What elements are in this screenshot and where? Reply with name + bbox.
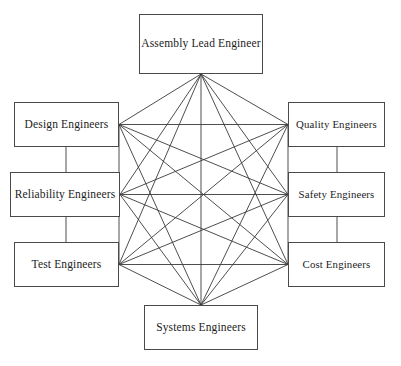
diagram-canvas: Assembly Lead EngineerDesign EngineersRe… (0, 0, 401, 366)
edge-safety-to-systems (201, 195, 288, 306)
node-label-reliability: Reliability Engineers (15, 189, 116, 201)
node-label-safety: Safety Engineers (299, 189, 375, 200)
node-test[interactable]: Test Engineers (14, 242, 119, 287)
node-quality[interactable]: Quality Engineers (288, 102, 385, 147)
node-label-quality: Quality Engineers (296, 119, 377, 130)
edge-design-to-systems (119, 125, 201, 306)
edge-assembly_lead-to-design (119, 74, 201, 125)
node-label-test: Test Engineers (32, 259, 102, 271)
edge-assembly_lead-to-quality (201, 74, 288, 125)
node-label-cost: Cost Engineers (303, 259, 371, 270)
node-label-design: Design Engineers (25, 119, 109, 131)
edge-quality-to-systems (201, 125, 288, 306)
edge-cost-to-systems (201, 265, 288, 306)
node-label-systems: Systems Engineers (156, 322, 246, 334)
node-design[interactable]: Design Engineers (14, 102, 119, 147)
node-label-assembly_lead: Assembly Lead Engineer (141, 38, 261, 50)
node-cost[interactable]: Cost Engineers (288, 242, 385, 287)
node-reliability[interactable]: Reliability Engineers (10, 172, 120, 217)
node-assembly_lead[interactable]: Assembly Lead Engineer (139, 14, 263, 74)
edge-assembly_lead-to-reliability (120, 74, 201, 195)
node-systems[interactable]: Systems Engineers (144, 305, 258, 350)
edge-assembly_lead-to-cost (201, 74, 288, 265)
edge-test-to-systems (119, 265, 201, 306)
node-safety[interactable]: Safety Engineers (288, 172, 385, 217)
